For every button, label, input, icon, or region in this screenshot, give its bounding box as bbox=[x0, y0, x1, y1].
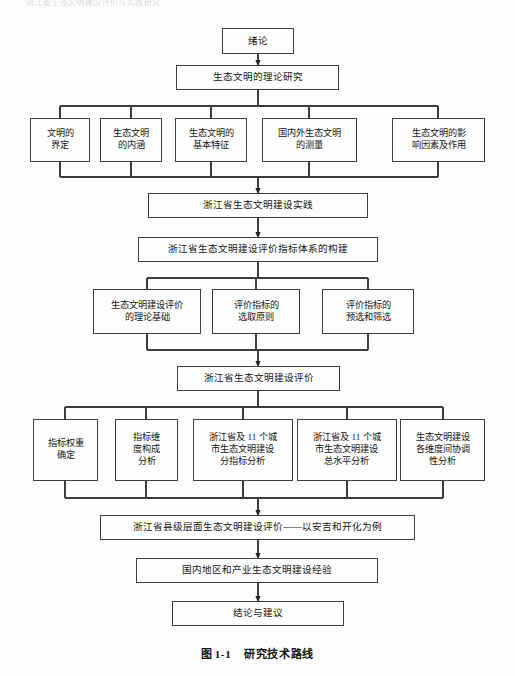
flow-node-label: 国内地区和产业生态文明建设经验 bbox=[182, 564, 332, 576]
flow-node-label: 浙江省生态文明建设评价指标体系的构建 bbox=[168, 243, 348, 255]
flow-node-n13: 浙江省生态文明建设评价 bbox=[177, 366, 340, 391]
flow-node-n9: 浙江省生态文明建设评价指标体系的构建 bbox=[138, 237, 378, 262]
flow-node-label: 生态文明的 基本特征 bbox=[189, 128, 234, 152]
flow-node-n3: 文明的 界定 bbox=[30, 118, 90, 162]
flow-node-label: 指标维 度构成 分析 bbox=[133, 432, 160, 467]
flowchart-page: 浙江省生态文明建设评价与实践研究 bbox=[0, 0, 515, 676]
flow-node-label: 国内外生态文明 的测量 bbox=[278, 128, 341, 152]
flow-node-n19: 浙江省县级层面生态文明建设评价——以安吉和开化为例 bbox=[100, 515, 415, 540]
caption-title: 研究技术路线 bbox=[244, 648, 314, 660]
flow-node-label: 评价指标的 选取原则 bbox=[234, 300, 279, 324]
flow-node-label: 浙江省生态文明建设实践 bbox=[203, 199, 313, 211]
flow-node-label: 文明的 界定 bbox=[47, 128, 74, 152]
flow-node-label: 生态文明建设 各维度间协调 性分析 bbox=[416, 432, 470, 467]
caption-label: 图 bbox=[201, 648, 213, 660]
flow-node-n12: 评价指标的 预选和筛选 bbox=[322, 289, 414, 334]
flow-node-n18: 生态文明建设 各维度间协调 性分析 bbox=[400, 419, 485, 481]
flow-node-n2: 生态文明的理论研究 bbox=[176, 65, 339, 90]
figure-caption: 图1-1研究技术路线 bbox=[0, 645, 515, 661]
flow-node-n15: 指标维 度构成 分析 bbox=[115, 419, 178, 481]
flow-node-label: 生态文明建设评价 的理论基础 bbox=[111, 300, 183, 324]
caption-number: 1-1 bbox=[215, 648, 231, 660]
flow-node-label: 结论与建议 bbox=[233, 607, 283, 619]
flow-node-n10: 生态文明建设评价 的理论基础 bbox=[93, 289, 201, 334]
flow-node-label: 绪论 bbox=[248, 35, 268, 47]
flow-node-n14: 指标权重 确定 bbox=[33, 419, 98, 481]
flow-node-label: 浙江省及 11 个城 市生态文明建设 总水平分析 bbox=[313, 432, 380, 467]
flow-node-label: 生态文明的影 响因素及作用 bbox=[412, 128, 466, 152]
flow-node-label: 生态文明的理论研究 bbox=[213, 71, 303, 83]
flow-node-n5: 生态文明的 基本特征 bbox=[175, 118, 247, 162]
flow-node-n16: 浙江省及 11 个城 市生态文明建设 分指标分析 bbox=[193, 419, 293, 481]
flow-node-n17: 浙江省及 11 个城 市生态文明建设 总水平分析 bbox=[297, 419, 397, 481]
flow-node-n8: 浙江省生态文明建设实践 bbox=[148, 193, 368, 218]
flow-node-label: 浙江省县级层面生态文明建设评价——以安吉和开化为例 bbox=[133, 521, 382, 533]
flow-node-label: 指标权重 确定 bbox=[48, 438, 84, 462]
flow-node-label: 浙江省生态文明建设评价 bbox=[204, 372, 314, 384]
flow-node-n20: 国内地区和产业生态文明建设经验 bbox=[136, 558, 378, 583]
flow-node-n6: 国内外生态文明 的测量 bbox=[262, 118, 357, 162]
flow-node-label: 浙江省及 11 个城 市生态文明建设 分指标分析 bbox=[209, 432, 276, 467]
flow-node-n1: 绪论 bbox=[222, 28, 294, 54]
flow-node-label: 生态文明 的内涵 bbox=[113, 128, 149, 152]
flow-node-n21: 结论与建议 bbox=[172, 601, 344, 626]
flow-node-n7: 生态文明的影 响因素及作用 bbox=[392, 118, 485, 162]
flow-node-label: 评价指标的 预选和筛选 bbox=[346, 300, 391, 324]
flow-node-n4: 生态文明 的内涵 bbox=[100, 118, 162, 162]
flow-node-n11: 评价指标的 选取原则 bbox=[212, 289, 300, 334]
